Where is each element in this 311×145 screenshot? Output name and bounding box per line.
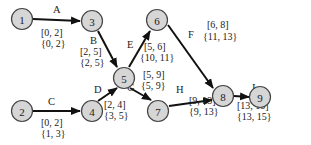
node-9-label: 9 [257,92,263,104]
node-5-label: 5 [121,73,127,85]
node-1-label: 1 [19,14,25,26]
edge-a-early: [0, 2] [41,27,63,38]
node-6-label: 6 [154,15,160,27]
edge-d-name: D [94,84,102,95]
edge-h: H [9, 13] {9, 13} [169,84,219,117]
edge-g-early: [5, 9] [143,69,165,80]
edge-c: C [0, 2] {1, 3} [33,96,80,139]
node-4-label: 4 [89,106,95,118]
edge-h-early: [9, 13] [189,95,216,106]
edge-c-name: C [48,96,55,107]
edge-b-name: B [90,35,97,46]
node-4: 4 [82,101,103,122]
edge-a: A [0, 2] {0, 2} [33,4,80,49]
edge-b-early: [2, 5] [80,46,102,57]
edge-g-late: {5, 9} [141,80,166,91]
edge-f: F [6, 8] {11, 13} [168,19,237,88]
edge-e-name: E [127,39,133,50]
edge-c-early: [0, 2] [41,117,63,128]
edge-e: E [5, 6] {10, 11} [127,31,174,67]
activity-network-diagram: A [0, 2] {0, 2} B [2, 5] {2, 5} C [0, 2]… [0,0,311,145]
edge-b-late: {2, 5} [80,57,105,68]
edge-c-late: {1, 3} [41,128,66,139]
node-2-label: 2 [19,106,25,118]
edge-f-late: {11, 13} [203,31,237,42]
node-9: 9 [250,87,271,108]
node-3: 3 [82,11,103,32]
node-1: 1 [12,9,33,30]
node-7-label: 7 [155,106,161,118]
node-7: 7 [148,101,169,122]
node-2: 2 [12,101,33,122]
edge-h-name: H [176,84,184,95]
edge-i-late: {13, 15} [237,111,272,122]
edge-f-name: F [188,29,194,40]
edge-a-late: {0, 2} [41,38,66,49]
node-6: 6 [147,10,168,31]
edge-e-late: {10, 11} [140,52,174,63]
node-8: 8 [213,86,234,107]
edge-a-name: A [53,4,61,15]
edge-f-early: [6, 8] [207,19,229,30]
edge-e-early: [5, 6] [144,41,166,52]
node-5: 5 [114,68,135,89]
edge-h-late: {9, 13} [189,106,219,117]
node-8-label: 8 [220,91,226,103]
edge-b: B [2, 5] {2, 5} [80,31,117,68]
edge-d-early: [2, 4] [104,99,126,110]
edge-d-late: {3, 5} [104,110,129,121]
node-3-label: 3 [89,16,95,28]
